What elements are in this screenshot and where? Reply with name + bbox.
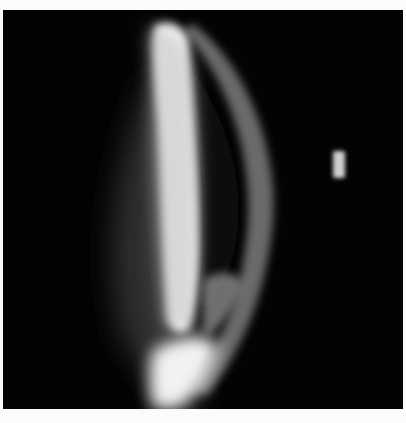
cornea-section-drawing bbox=[3, 10, 403, 409]
bright-lower-lobe bbox=[149, 336, 218, 409]
slit-lamp-photo bbox=[3, 10, 403, 409]
small-reflex-marker bbox=[333, 151, 345, 178]
